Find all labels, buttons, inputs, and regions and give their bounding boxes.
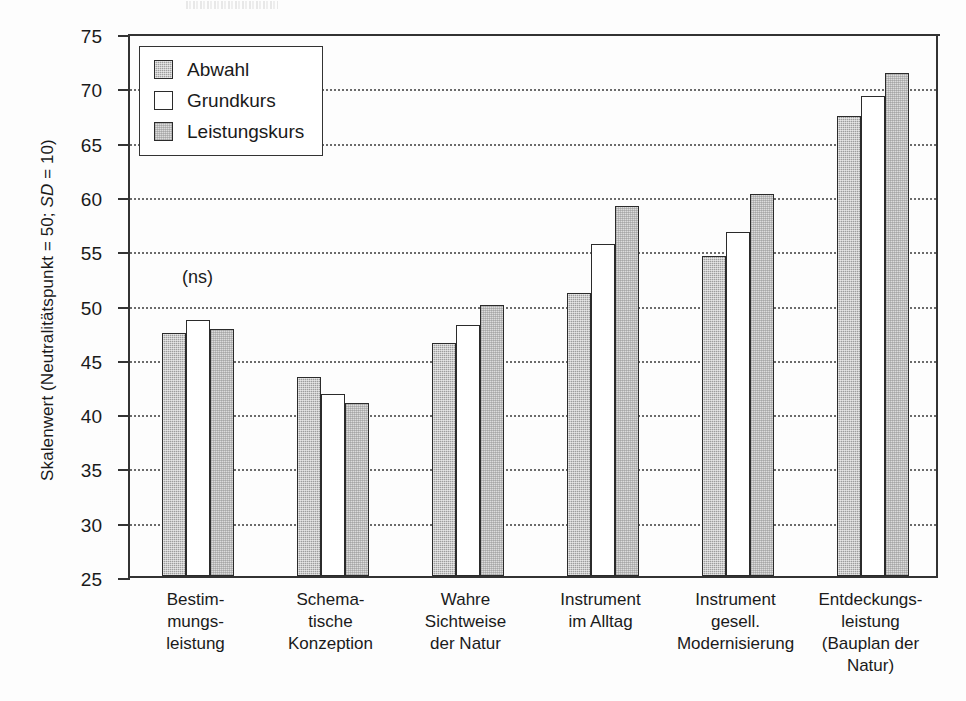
bar-2-2: [480, 305, 504, 577]
y-tick-label-65: 65: [56, 135, 102, 157]
y-tick-30: 30: [118, 524, 130, 526]
y-tick-50: 50: [118, 307, 130, 309]
y-tick-45: 45: [118, 361, 130, 363]
bar-3-0: [567, 293, 591, 576]
bar-3-1: [591, 244, 615, 576]
y-tick-label-35: 35: [56, 460, 102, 482]
y-tick-label-45: 45: [56, 352, 102, 374]
y-axis-title-part-2: = 10): [38, 139, 57, 184]
y-tick-70: 70: [118, 89, 130, 91]
gridline-60: [130, 198, 936, 200]
y-tick-label-60: 60: [56, 189, 102, 211]
bar-2-1: [456, 325, 480, 576]
legend-label-abwahl: Abwahl: [187, 60, 249, 79]
y-tick-25: 25: [118, 578, 130, 580]
gridline-55: [130, 252, 936, 254]
gridline-50: [130, 307, 936, 309]
bar-5-2: [885, 73, 909, 576]
x-axis-label-3: Instrument im Alltag: [560, 589, 640, 633]
y-tick-55: 55: [118, 252, 130, 254]
gridline-40: [130, 415, 936, 417]
x-axis-label-2: Wahre Sichtweise der Natur: [425, 589, 506, 655]
y-tick-65: 65: [118, 144, 130, 146]
bar-0-0: [162, 333, 186, 576]
y-tick-40: 40: [118, 415, 130, 417]
bar-4-0: [702, 256, 726, 576]
y-axis-title: Skalenwert (Neutralitätspunkt = 50; SD =…: [38, 30, 58, 590]
y-tick-label-50: 50: [56, 298, 102, 320]
bar-1-2: [345, 403, 369, 576]
bar-0-2: [210, 329, 234, 576]
legend-label-leistungskurs: Leistungskurs: [187, 122, 304, 141]
x-axis-label-1: Schema- tische Konzeption: [288, 589, 373, 655]
x-axis-label-5: Entdeckungs- leistung (Bauplan der Natur…: [819, 589, 923, 677]
legend-swatch-abwahl: [154, 60, 173, 79]
legend: Abwahl Grundkurs Leistungskurs: [139, 46, 323, 156]
bar-5-1: [861, 96, 885, 576]
bar-1-0: [297, 377, 321, 576]
y-tick-label-25: 25: [56, 569, 102, 591]
legend-swatch-leistungskurs: [154, 122, 173, 141]
gridline-30: [130, 524, 936, 526]
legend-item-leistungskurs: Leistungskurs: [154, 116, 304, 147]
bar-3-2: [615, 206, 639, 576]
y-tick-60: 60: [118, 198, 130, 200]
y-tick-label-40: 40: [56, 406, 102, 428]
gridline-45: [130, 361, 936, 363]
bar-4-1: [726, 232, 750, 576]
bar-2-0: [432, 343, 456, 576]
bar-1-1: [321, 394, 345, 576]
bar-0-1: [186, 320, 210, 576]
annotation-ns: (ns): [182, 267, 213, 288]
y-axis-title-italic: SD: [38, 184, 57, 208]
bar-5-0: [837, 116, 861, 576]
y-axis-title-part-1: Skalenwert (Neutralitätspunkt = 50;: [38, 208, 57, 481]
bar-chart-figure: Skalenwert (Neutralitätspunkt = 50; SD =…: [0, 0, 966, 701]
gridline-35: [130, 469, 936, 471]
y-tick-35: 35: [118, 469, 130, 471]
y-tick-label-75: 75: [56, 26, 102, 48]
legend-swatch-grundkurs: [154, 91, 173, 110]
bar-4-2: [750, 194, 774, 576]
x-axis-label-4: Instrument gesell. Modernisierung: [677, 589, 794, 655]
legend-item-abwahl: Abwahl: [154, 54, 304, 85]
x-axis-label-0: Bestim- mungs- leistung: [166, 589, 225, 655]
legend-label-grundkurs: Grundkurs: [187, 91, 276, 110]
y-tick-75: 75: [118, 35, 130, 37]
scan-artifact: [186, 1, 278, 9]
y-tick-label-30: 30: [56, 515, 102, 537]
legend-item-grundkurs: Grundkurs: [154, 85, 304, 116]
y-tick-label-55: 55: [56, 243, 102, 265]
y-tick-label-70: 70: [56, 80, 102, 102]
